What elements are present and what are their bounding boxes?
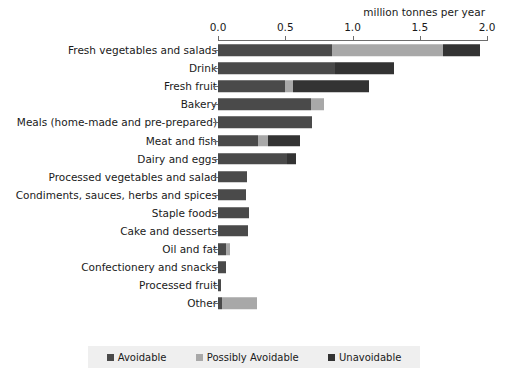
bar-segment-avoidable	[218, 80, 285, 92]
bar-segment-possibly-avoidable	[285, 80, 293, 92]
category-label: Oil and fat	[0, 243, 217, 255]
bar-segment-possibly-avoidable	[226, 243, 230, 255]
stacked-bar	[218, 189, 246, 201]
category-label: Fresh fruit	[0, 80, 217, 92]
bar-segment-unavoidable	[268, 135, 300, 147]
bar-segment-avoidable	[218, 189, 246, 201]
chart-row: Meat and fish	[0, 131, 507, 149]
category-label: Processed vegetables and salad	[0, 171, 217, 183]
category-label: Meals (home-made and pre-prepared)	[0, 116, 217, 128]
category-label: Other	[0, 297, 217, 309]
chart-row: Dairy and eggs	[0, 150, 507, 168]
chart-row: Bakery	[0, 95, 507, 113]
category-label: Dairy and eggs	[0, 153, 217, 165]
bar-segment-unavoidable	[335, 62, 394, 74]
x-tick-label-2: 1.0	[344, 21, 361, 33]
stacked-bar	[218, 80, 369, 92]
x-tick-label-3: 1.5	[411, 21, 428, 33]
bar-segment-avoidable	[218, 153, 287, 165]
chart-row: Staple foods	[0, 204, 507, 222]
category-label: Drink	[0, 62, 217, 74]
bar-segment-avoidable	[218, 62, 335, 74]
x-tick-label-0: 0.0	[210, 21, 227, 33]
chart-row: Condiments, sauces, herbs and spices	[0, 186, 507, 204]
category-label: Processed fruit	[0, 279, 217, 291]
bar-segment-possibly-avoidable	[311, 99, 324, 111]
legend-swatch-icon	[107, 354, 114, 361]
chart-row: Processed vegetables and salad	[0, 168, 507, 186]
chart-row: Confectionery and snacks	[0, 258, 507, 276]
category-label: Bakery	[0, 98, 217, 110]
x-axis-title: million tonnes per year	[363, 6, 485, 18]
bar-segment-avoidable	[218, 99, 311, 111]
bar-segment-avoidable	[218, 280, 221, 292]
category-label: Condiments, sauces, herbs and spices	[0, 189, 217, 201]
legend-label: Possibly Avoidable	[207, 352, 299, 363]
stacked-bar	[218, 207, 249, 219]
legend-swatch-icon	[196, 354, 203, 361]
bar-segment-possibly-avoidable	[222, 298, 257, 310]
bar-segment-possibly-avoidable	[332, 44, 442, 56]
legend-item-unavoidable[interactable]: Unavoidable	[328, 352, 401, 363]
category-label: Confectionery and snacks	[0, 261, 217, 273]
chart-row: Other	[0, 294, 507, 312]
stacked-bar	[218, 243, 230, 255]
stacked-bar	[218, 171, 247, 183]
chart-row: Processed fruit	[0, 276, 507, 294]
bar-segment-unavoidable	[287, 153, 296, 165]
legend-swatch-icon	[328, 354, 335, 361]
stacked-bar	[218, 298, 257, 310]
bar-segment-avoidable	[218, 261, 226, 273]
bar-segment-avoidable	[218, 225, 248, 237]
bar-rows: Fresh vegetables and saladsDrinkFresh fr…	[0, 41, 507, 312]
x-tick-label-4: 2.0	[479, 21, 496, 33]
category-label: Fresh vegetables and salads	[0, 44, 217, 56]
stacked-bar	[218, 62, 394, 74]
legend-label: Unavoidable	[339, 352, 401, 363]
stacked-bar	[218, 117, 312, 129]
chart-row: Meals (home-made and pre-prepared)	[0, 113, 507, 131]
chart-row: Fresh vegetables and salads	[0, 41, 507, 59]
legend-item-avoidable[interactable]: Avoidable	[107, 352, 167, 363]
bar-segment-unavoidable	[443, 44, 481, 56]
chart-legend: AvoidablePossibly AvoidableUnavoidable	[88, 346, 420, 368]
stacked-bar	[218, 44, 480, 56]
legend-item-possibly-avoidable[interactable]: Possibly Avoidable	[196, 352, 299, 363]
chart-row: Fresh fruit	[0, 77, 507, 95]
horizontal-stacked-bar-chart: million tonnes per year 0.00.51.01.52.0 …	[0, 0, 507, 380]
bar-segment-unavoidable	[293, 80, 368, 92]
stacked-bar	[218, 261, 226, 273]
category-label: Meat and fish	[0, 135, 217, 147]
bar-segment-avoidable	[218, 171, 247, 183]
bar-segment-avoidable	[218, 135, 258, 147]
category-label: Staple foods	[0, 207, 217, 219]
chart-row: Cake and desserts	[0, 222, 507, 240]
stacked-bar	[218, 153, 296, 165]
bar-segment-possibly-avoidable	[258, 135, 267, 147]
stacked-bar	[218, 225, 248, 237]
chart-row: Drink	[0, 59, 507, 77]
bar-segment-avoidable	[218, 117, 312, 129]
bar-segment-avoidable	[218, 207, 249, 219]
stacked-bar	[218, 99, 324, 111]
stacked-bar	[218, 280, 221, 292]
chart-row: Oil and fat	[0, 240, 507, 258]
x-tick-label-1: 0.5	[277, 21, 294, 33]
legend-label: Avoidable	[118, 352, 167, 363]
stacked-bar	[218, 135, 300, 147]
category-label: Cake and desserts	[0, 225, 217, 237]
bar-segment-avoidable	[218, 243, 226, 255]
bar-segment-avoidable	[218, 44, 332, 56]
